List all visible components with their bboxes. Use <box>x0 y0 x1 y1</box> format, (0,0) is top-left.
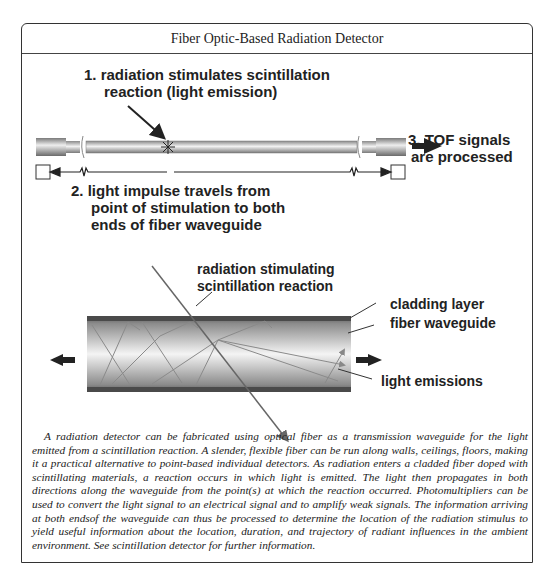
fiber-tube <box>86 141 357 153</box>
right-detector-box <box>391 165 405 179</box>
step2-line2: point of stimulation to both <box>71 199 285 216</box>
radiation-label-line2: scintillation reaction <box>197 278 335 295</box>
step3-label: 3. TOF signals are processed <box>408 131 513 165</box>
step1-label: 1. radiation stimulates scintillation re… <box>84 66 330 100</box>
figure-caption: A radiation detector can be fabricated u… <box>32 430 528 552</box>
left-output-arrow-icon <box>50 354 75 366</box>
cladding-bottom <box>87 387 351 392</box>
cladding-top <box>87 316 351 321</box>
step1-pointer-arrow <box>128 106 163 137</box>
cladding-label: cladding layer <box>390 296 484 313</box>
emissions-label: light emissions <box>381 373 483 390</box>
waveguide-label: fiber waveguide <box>390 315 496 332</box>
step1-line2: reaction (light emission) <box>84 83 330 100</box>
fiber-core <box>87 316 351 392</box>
right-output-arrow-icon <box>356 354 382 366</box>
right-break-mark <box>358 136 360 158</box>
signal-line-left <box>50 168 167 176</box>
step3-line2: are processed <box>408 148 513 165</box>
scintillation-star-icon <box>161 140 175 154</box>
waveguide-label-leader <box>348 325 374 333</box>
right-end-cap <box>376 138 406 156</box>
left-break-mark <box>82 136 84 158</box>
step1-line1: 1. radiation stimulates scintillation <box>84 66 330 83</box>
bottom-fiber <box>50 316 382 392</box>
step2-label: 2. light impulse travels from point of s… <box>71 182 285 233</box>
step3-line1: 3. TOF signals <box>408 131 513 148</box>
radiation-label-line1: radiation stimulating <box>197 261 335 278</box>
top-fiber <box>36 136 406 158</box>
signal-line-right <box>174 168 391 176</box>
left-end-cap <box>36 138 66 156</box>
step2-line3: ends of fiber waveguide <box>71 216 285 233</box>
left-connector <box>66 141 80 153</box>
left-detector-box <box>36 165 50 179</box>
step2-line1: 2. light impulse travels from <box>71 182 285 199</box>
radiation-label: radiation stimulating scintillation reac… <box>197 261 335 295</box>
cladding-label-leader <box>350 303 376 318</box>
right-connector <box>362 141 376 153</box>
